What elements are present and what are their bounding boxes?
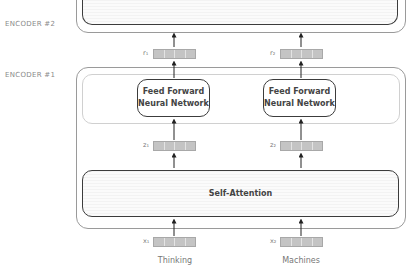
flow-arrows [0, 0, 419, 278]
